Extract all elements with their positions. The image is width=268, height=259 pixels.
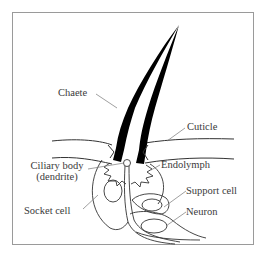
ciliary-body xyxy=(124,160,131,167)
neuron-nucleus xyxy=(141,219,167,233)
label-socket-cell: Socket cell xyxy=(24,205,70,216)
label-ciliary-body: Ciliary body (dendrite) xyxy=(24,160,90,182)
support-cell-nucleus xyxy=(142,199,162,211)
label-cuticle: Cuticle xyxy=(187,121,217,132)
leader-neuron xyxy=(166,212,186,226)
label-neuron: Neuron xyxy=(186,206,218,217)
label-ciliary-body-line2: (dendrite) xyxy=(24,171,90,182)
chaete-strand-right xyxy=(136,25,179,164)
leader-chaete xyxy=(96,94,117,108)
sensillum-diagram xyxy=(0,0,268,259)
label-chaete: Chaete xyxy=(58,87,87,98)
label-endolymph: Endolymph xyxy=(161,159,210,170)
dendrite-shaft xyxy=(124,166,180,244)
leader-socket-cell xyxy=(83,195,98,209)
label-support-cell: Support cell xyxy=(186,185,237,196)
label-ciliary-body-line1: Ciliary body xyxy=(24,160,90,171)
